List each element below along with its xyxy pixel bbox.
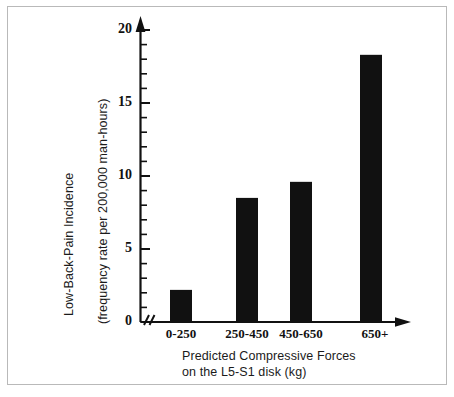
y-tick-label-5: 5 <box>106 240 132 256</box>
y-tick-label-20: 20 <box>106 21 132 37</box>
bar-2[interactable] <box>290 182 312 322</box>
x-tick-label-3: 650+ <box>335 326 415 342</box>
figure-container: Low-Back-Pain Incidence (frequency rate … <box>0 0 454 397</box>
bar-1[interactable] <box>236 198 258 322</box>
y-tick-label-0: 0 <box>106 313 132 329</box>
x-tick-label-2: 450-650 <box>261 326 341 342</box>
bar-0[interactable] <box>170 290 192 322</box>
bar-3[interactable] <box>360 55 382 322</box>
y-tick-label-10: 10 <box>106 167 132 183</box>
axis-break-marker <box>144 315 155 325</box>
y-tick-label-15: 15 <box>106 94 132 110</box>
bars-group <box>170 55 382 322</box>
